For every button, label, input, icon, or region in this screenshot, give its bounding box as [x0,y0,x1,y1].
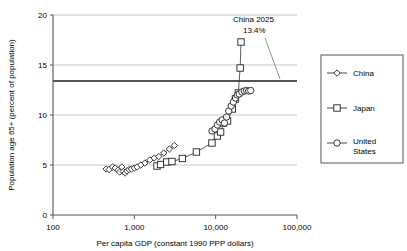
chart-svg: 051015201001,00010,000100,000Per capita … [0,0,407,251]
data-point-diamond [166,146,172,152]
y-tick-label: 5 [43,161,48,170]
y-tick-label: 20 [38,11,47,20]
y-tick-label: 10 [38,111,47,120]
legend-marker-square [334,105,340,111]
x-tick-label: 100 [46,223,60,232]
legend-marker-circle [334,140,340,146]
series-united-states [209,87,254,134]
data-point-square [193,149,199,155]
data-point-diamond [171,142,177,148]
legend-label: China [353,69,374,78]
y-axis-label: Population age 65+ (percent of populatio… [7,39,16,191]
legend-label: Japan [353,104,375,113]
x-tick-label: 10,000 [203,223,228,232]
data-point-square [169,158,175,164]
y-tick-label: 0 [43,211,48,220]
data-point-square [237,65,243,71]
chart-figure: 051015201001,00010,000100,000Per capita … [0,0,407,251]
annotation-line-2: 13.4% [243,26,266,35]
x-tick-labels: 1001,00010,000100,000 [46,215,312,232]
legend-label: United [353,137,376,146]
x-tick-label: 1,000 [124,223,145,232]
y-tick-labels: 05101520 [38,11,53,220]
data-point-square [238,39,244,45]
data-point-square [209,140,215,146]
data-point-circle [223,114,229,120]
chart-legend: ChinaJapanUnitedStates [321,55,403,163]
data-point-square [179,155,185,161]
data-point-square [157,161,163,167]
annotation-leader-line [265,38,280,79]
x-axis-label: Per capita GDP (constant 1990 PPP dollar… [96,239,253,248]
y-tick-label: 15 [38,61,47,70]
annotation-line-1: China 2025 [233,15,274,24]
data-point-circle [221,120,227,126]
x-tick-label: 100,000 [283,223,312,232]
legend-label: States [353,147,376,156]
data-point-diamond [161,150,167,156]
data-point-circle [248,87,254,93]
